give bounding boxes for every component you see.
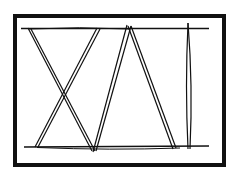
outer-frame	[15, 16, 224, 165]
truss-diagram	[0, 0, 239, 177]
bottom-rail	[24, 146, 209, 149]
strut-4	[128, 26, 176, 149]
strut-3	[93, 25, 131, 152]
strut-5	[187, 23, 192, 149]
top-rail	[21, 28, 209, 29]
strut-2	[35, 28, 100, 147]
strut-1	[28, 28, 95, 151]
